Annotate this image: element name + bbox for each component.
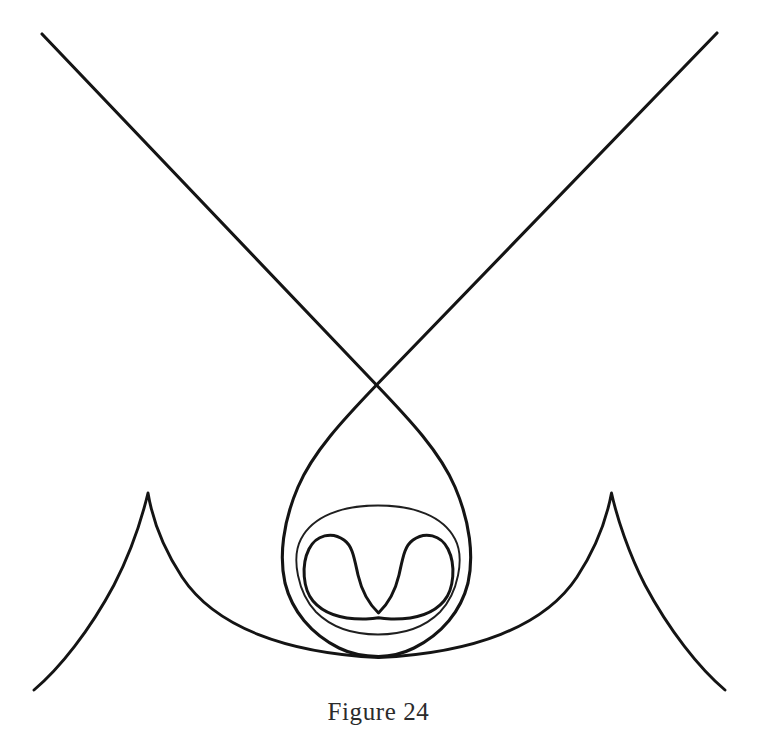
caustic-diagram bbox=[0, 0, 757, 748]
paper-background bbox=[0, 0, 757, 748]
figure-page: Figure 24 bbox=[0, 0, 757, 748]
figure-caption: Figure 24 bbox=[0, 699, 757, 724]
